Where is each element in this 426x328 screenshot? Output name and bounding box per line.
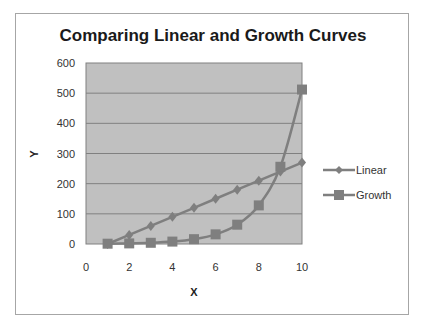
legend-square-icon: [334, 190, 344, 200]
square-marker: [167, 237, 177, 247]
legend-label-linear: Linear: [356, 164, 387, 176]
x-tick-label: 6: [213, 261, 219, 273]
y-tick-label: 0: [69, 238, 75, 250]
square-marker: [146, 238, 156, 248]
x-tick-label: 4: [169, 261, 175, 273]
square-marker: [275, 162, 285, 172]
legend-label-growth: Growth: [356, 189, 391, 201]
square-marker: [254, 200, 264, 210]
square-marker: [189, 234, 199, 244]
y-tick-label: 500: [57, 87, 75, 99]
square-marker: [232, 220, 242, 230]
square-marker: [103, 239, 113, 249]
y-tick-label: 600: [57, 57, 75, 69]
chart-plot: 01002003004005006000246810XYLinearGrowth: [0, 0, 426, 328]
y-axis-label: Y: [28, 150, 40, 158]
y-tick-label: 300: [57, 148, 75, 160]
x-tick-label: 10: [296, 261, 308, 273]
square-marker: [124, 238, 134, 248]
square-marker: [297, 85, 307, 95]
legend-diamond-icon: [335, 166, 343, 174]
x-axis-label: X: [190, 286, 198, 298]
y-tick-label: 400: [57, 117, 75, 129]
x-tick-label: 8: [256, 261, 262, 273]
x-tick-label: 2: [126, 261, 132, 273]
y-tick-label: 200: [57, 178, 75, 190]
square-marker: [211, 229, 221, 239]
y-tick-label: 100: [57, 208, 75, 220]
x-tick-label: 0: [83, 261, 89, 273]
